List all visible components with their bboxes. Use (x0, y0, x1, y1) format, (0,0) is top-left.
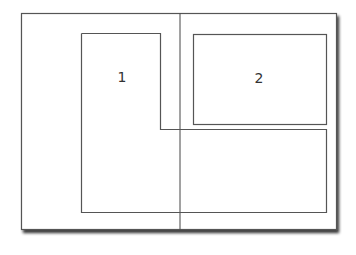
layout-diagram: 1 2 (0, 0, 356, 255)
page-frame (22, 14, 337, 230)
region-2-label: 2 (255, 70, 264, 86)
region-1-label: 1 (118, 69, 127, 85)
